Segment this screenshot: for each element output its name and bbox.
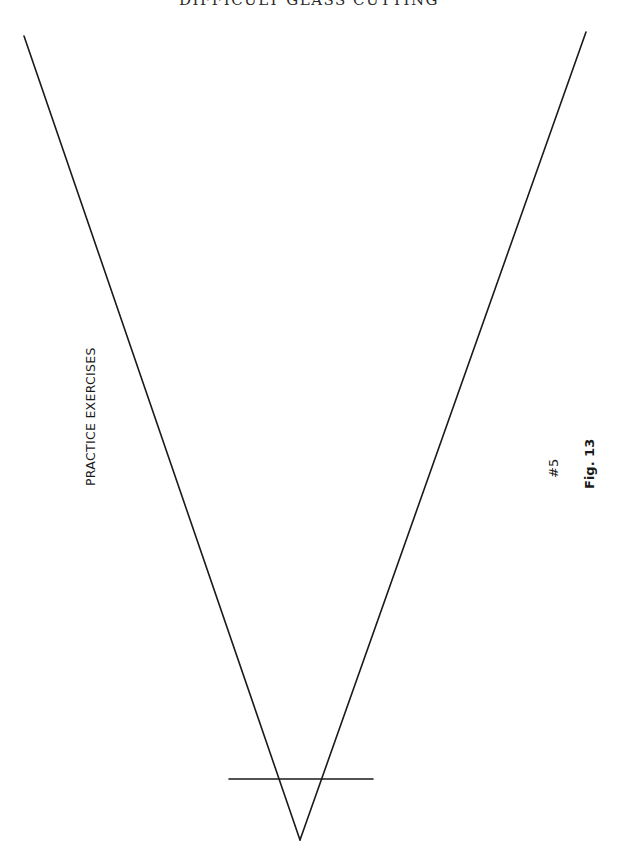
figure-label: Fig. 13: [582, 439, 597, 489]
right-line: [300, 32, 586, 840]
exercise-number: #5: [546, 459, 561, 478]
document-page: DIFFICULT GLASS CUTTING PRACTICE EXERCIS…: [0, 0, 618, 861]
left-line: [24, 36, 300, 840]
section-label: PRACTICE EXERCISES: [83, 347, 98, 486]
